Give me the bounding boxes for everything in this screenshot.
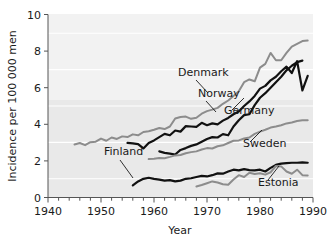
series-label-finland: Finland [104,145,143,158]
y-tick-label: 2 [34,155,41,168]
y-tick-label: 0 [34,192,41,205]
x-axis-title: Year [167,224,192,237]
x-tick-label: 1950 [87,205,115,218]
x-axis-tick-labels: 194019501960197019801990 [34,205,327,218]
y-axis-ticks [44,15,48,198]
x-tick-label: 1980 [246,205,274,218]
x-axis-ticks [48,198,313,203]
series-label-denmark: Denmark [178,66,229,79]
incidence-line-chart: 0246810 194019501960197019801990 Denmark… [0,0,327,245]
y-tick-label: 6 [34,82,41,95]
y-axis-tick-labels: 0246810 [27,9,41,205]
y-tick-label: 10 [27,9,41,22]
x-tick-label: 1940 [34,205,62,218]
x-tick-label: 1990 [299,205,327,218]
series-label-estonia: Estonia [258,176,299,189]
y-tick-label: 4 [34,118,41,131]
series-label-sweden: Sweden [243,137,286,150]
x-tick-label: 1960 [140,205,168,218]
x-tick-label: 1970 [193,205,221,218]
series-label-germany: Germany [224,104,275,117]
series-label-norway: Norway [198,87,240,100]
y-axis-title: Incidence per 100 000 men [6,30,19,182]
chart-figure: 0246810 194019501960197019801990 Denmark… [0,0,327,245]
y-tick-label: 8 [34,45,41,58]
